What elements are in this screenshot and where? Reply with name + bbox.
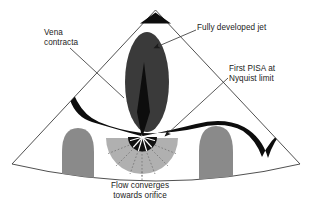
- myocardial-wall-left: [62, 128, 94, 196]
- label-flow-converges-towards-orifice: Flow converges towards orifice: [111, 181, 169, 200]
- label-first-pisa-at-nyquist-limit: First PISA at Nyquist limit: [229, 64, 275, 83]
- myocardial-wall-right: [199, 126, 233, 196]
- label-vena-contracta: Vena contracta: [44, 28, 78, 47]
- figure-canvas: Vena contracta Fully developed jet First…: [0, 0, 311, 210]
- label-fully-developed-jet: Fully developed jet: [197, 23, 266, 33]
- transducer-wedge: [140, 13, 171, 24]
